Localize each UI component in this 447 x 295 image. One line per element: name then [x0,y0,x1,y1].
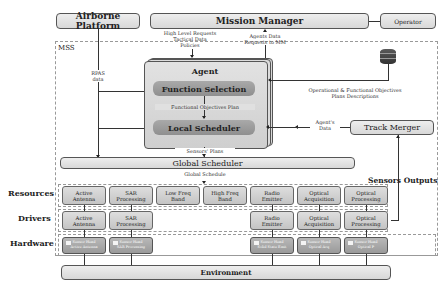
arrow-up-icon [263,29,267,32]
arrow-left-icon [266,125,269,129]
link [272,254,273,265]
driver-sar-processing: SARProcessing [109,211,153,230]
link [131,230,132,237]
mission-manager-label: Mission Manager [216,16,304,26]
resource-sar-processing: SARProcessing [109,186,153,205]
hardware-optical-p: Sensor HeadOptical P [344,237,388,254]
global-scheduler-box: Global Scheduler [60,157,355,169]
db-label: Operational & Functional ObjectivesPlans… [300,87,410,99]
resources-row-label: Resources [8,188,54,198]
database-icon [380,49,396,64]
track-merger-box: Track Merger [350,120,434,135]
function-selection-box: Function Selection [153,81,255,96]
driver-optical-acquisition: OpticalAcquisition [297,211,341,230]
function-selection-label: Function Selection [162,84,246,94]
local-scheduler-box: Local Scheduler [153,120,255,135]
link [131,254,132,265]
global-scheduler-label: Global Scheduler [173,159,243,168]
operator-box: Operator [380,13,436,29]
sensor-head-icon [113,241,118,245]
sensor-head-icon [301,241,306,245]
hardware-row-label: Hardware [10,238,54,248]
link [272,230,273,237]
link [84,254,85,265]
global-schedule-label: Global Schedule [175,171,235,177]
mm-to-agent-label: High Level RequestsTactical DataPolicies [155,30,225,48]
sensor-head-icon [66,241,71,245]
hardware-sar-processing: Sensor HeadSAR Processing [109,237,153,254]
arrow-up-icon [396,135,400,138]
resource-active-antenna: ActiveAntenna [62,186,106,205]
resource-optical-acquisition: OpticalAcquisition [297,186,341,205]
resource-optical-processing: OpticalProcessing [344,186,388,205]
arrow-left-icon [268,78,271,82]
link [84,230,85,237]
agents-data-label: Agent'sData [310,119,340,131]
agent-title: Agent [144,66,266,76]
database-band [380,53,396,54]
drivers-row-label: Drivers [18,213,51,223]
hardware-active-antenna: Sensor HeadActive Antenna [62,237,106,254]
mss-label: MSS [58,44,75,52]
database-band [380,58,396,59]
sensor-head-icon [254,241,259,245]
sensors-bracket [391,220,399,221]
hardware-optical-acq: Sensor HeadOptical Acq [297,237,341,254]
link [84,205,85,211]
local-scheduler-label: Local Scheduler [168,123,240,133]
operator-label: Operator [394,18,422,25]
link [366,230,367,237]
driver-optical-processing: OpticalProcessing [344,211,388,230]
hardware-solid-state-emitter: Sensor HeadSolid State Emit [250,237,294,254]
agent-to-mm-label: Agents DataRequests to MM [235,33,295,45]
db-line-v [388,64,389,80]
airborne-line [98,29,99,157]
track-merger-label: Track Merger [364,123,420,132]
environment-label: Environment [201,268,252,277]
driver-radio-emitter: RadioEmitter [250,211,294,230]
functional-plan-label: Functional Objectives Plan [155,104,255,110]
resource-radio-emitter: RadioEmitter [250,186,294,205]
link [272,205,273,211]
link [319,205,320,211]
airborne-platform-label: Airborne Platform [57,11,139,31]
link [319,254,320,265]
link [319,230,320,237]
resource-high-freq-band: High FreqBand [203,186,247,205]
sensor-head-icon [348,241,353,245]
tm-agent-line2 [268,127,298,128]
link [366,254,367,265]
mission-manager-box: Mission Manager [150,13,369,29]
arrow-down-icon [202,116,206,119]
link [366,205,367,211]
airborne-platform-box: Airborne Platform [56,13,140,29]
resource-low-freq-band: Low FreqBand [156,186,200,205]
rpas-data-label: RPASdata [82,70,114,82]
environment-box: Environment [61,265,391,280]
link [131,205,132,211]
mm-operator-link [369,21,380,22]
driver-active-antenna: ActiveAntenna [62,211,106,230]
db-line-h [270,80,389,81]
